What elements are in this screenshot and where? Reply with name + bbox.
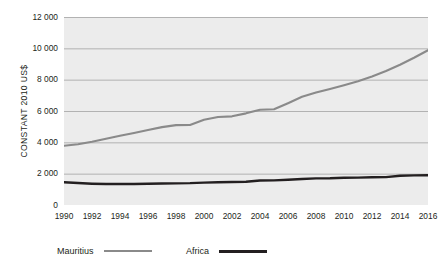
- series-line-mauritius: [64, 50, 428, 146]
- legend-item-africa[interactable]: Africa: [186, 243, 267, 259]
- y-tick-label: 2 000: [4, 169, 58, 177]
- y-axis-tick-labels: 02 0004 0006 0008 00010 00012 000: [0, 0, 58, 274]
- plot-area: [64, 17, 428, 205]
- x-tick-label: 2016: [408, 212, 442, 221]
- y-tick-label: 6 000: [4, 107, 58, 115]
- legend-label: Africa: [186, 246, 209, 256]
- legend-line-swatch: [219, 250, 267, 253]
- chart-legend: MauritiusAfrica: [0, 243, 442, 263]
- legend-item-mauritius[interactable]: Mauritius: [57, 243, 152, 259]
- legend-line-swatch: [104, 250, 152, 252]
- y-tick-label: 10 000: [4, 44, 58, 52]
- data-lines-layer: [64, 17, 428, 205]
- series-line-africa: [64, 175, 428, 184]
- x-axis-tick-labels: 1990199219941996199820002002200420062008…: [64, 212, 428, 226]
- y-tick-label: 4 000: [4, 138, 58, 146]
- legend-label: Mauritius: [57, 246, 94, 256]
- y-tick-label: 12 000: [4, 13, 58, 21]
- y-tick-label: 0: [4, 201, 58, 209]
- y-tick-label: 8 000: [4, 75, 58, 83]
- chart-figure: CONSTANT 2010 US$ 02 0004 0006 0008 0001…: [0, 0, 442, 274]
